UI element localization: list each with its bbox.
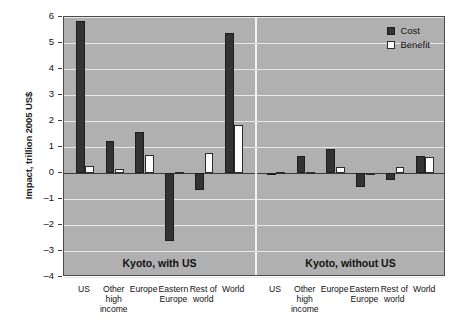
y-tick-mark [58, 120, 62, 121]
bar-cost [416, 156, 425, 173]
legend-item-benefit: Benefit [387, 39, 430, 50]
bar-cost [386, 173, 395, 180]
y-tick-mark [58, 276, 62, 277]
y-tick-label: –1 [0, 192, 54, 203]
y-tick-label: 3 [0, 88, 54, 99]
bar-cost [326, 149, 335, 173]
bar-cost [165, 173, 174, 241]
gridline [64, 69, 444, 70]
y-tick-label: 4 [0, 62, 54, 73]
bar-benefit [306, 172, 315, 174]
bar-benefit [85, 166, 94, 173]
bar-benefit [276, 172, 285, 174]
y-tick-mark [58, 172, 62, 173]
panel-title-left: Kyoto, with US [64, 257, 255, 269]
bar-benefit [336, 167, 345, 173]
plot-area: Kyoto, with US Kyoto, without US Cost Be… [63, 16, 445, 276]
legend-label-benefit: Benefit [400, 39, 430, 50]
legend-swatch-benefit-icon [387, 41, 395, 49]
bar-cost [195, 173, 204, 190]
panel-title-right: Kyoto, without US [255, 257, 446, 269]
panel-divider [255, 17, 257, 275]
bar-benefit [366, 173, 375, 175]
y-tick-label: 5 [0, 36, 54, 47]
gridline [64, 17, 444, 18]
bar-benefit [425, 157, 434, 173]
bar-cost [356, 173, 365, 187]
y-tick-mark [58, 146, 62, 147]
y-tick-label: –4 [0, 270, 54, 281]
x-category-label: World [405, 284, 443, 294]
bar-cost [106, 141, 115, 174]
gridline [64, 251, 444, 252]
gridline [64, 225, 444, 226]
bar-cost [225, 33, 234, 173]
y-tick-label: –2 [0, 218, 54, 229]
chart-figure: Impact, trillion 2005 US$ 6543210–1–2–3–… [0, 0, 461, 332]
y-tick-mark [58, 224, 62, 225]
y-tick-mark [58, 42, 62, 43]
bar-benefit [145, 155, 154, 173]
y-tick-label: 0 [0, 166, 54, 177]
y-tick-label: –3 [0, 244, 54, 255]
legend-label-cost: Cost [400, 25, 420, 36]
y-tick-mark [58, 198, 62, 199]
bar-benefit [175, 172, 184, 174]
y-tick-label: 1 [0, 140, 54, 151]
legend-swatch-cost-icon [387, 27, 395, 35]
gridline [64, 121, 444, 122]
gridline [64, 277, 444, 278]
y-tick-mark [58, 16, 62, 17]
bar-benefit [396, 167, 405, 174]
y-tick-label: 6 [0, 10, 54, 21]
y-tick-mark [58, 68, 62, 69]
x-category-label: World [214, 284, 252, 294]
bar-cost [135, 132, 144, 173]
y-tick-mark [58, 250, 62, 251]
gridline [64, 199, 444, 200]
bar-benefit [115, 169, 124, 173]
legend-item-cost: Cost [387, 25, 430, 36]
chart-legend: Cost Benefit [387, 25, 430, 53]
bar-cost [76, 21, 85, 173]
bar-benefit [205, 153, 214, 173]
gridline [64, 147, 444, 148]
y-tick-label: 2 [0, 114, 54, 125]
y-tick-mark [58, 94, 62, 95]
bar-benefit [234, 125, 243, 173]
bar-cost [267, 173, 276, 175]
bar-cost [297, 156, 306, 173]
gridline [64, 95, 444, 96]
